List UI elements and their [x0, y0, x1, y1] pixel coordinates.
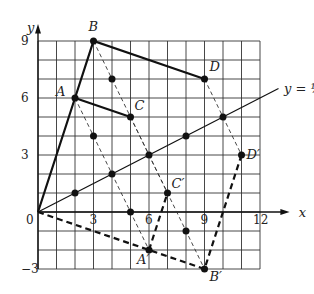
- point-label: A: [55, 84, 65, 99]
- x-tick-label: 12: [253, 213, 268, 227]
- svg-text:0: 0: [26, 213, 34, 227]
- point-marker: [201, 76, 208, 83]
- mirror-line-label: y = ½x: [283, 81, 314, 96]
- point-label: A′: [136, 252, 149, 267]
- point-marker: [127, 114, 134, 121]
- y-tick-label: 3: [21, 148, 29, 162]
- point-marker: [201, 266, 208, 273]
- point-marker: [90, 133, 97, 140]
- y-axis-arrow-icon: [35, 24, 41, 34]
- point-marker: [109, 76, 116, 83]
- point-label: C: [135, 98, 145, 113]
- point-label: D′: [246, 147, 260, 162]
- point-marker: [72, 190, 79, 197]
- y-tick-label: 6: [21, 91, 29, 105]
- point-marker: [109, 171, 116, 178]
- point-marker: [164, 190, 171, 197]
- diagram-canvas: xy036912963−3y = ½xABCDA′B′C′D′: [0, 0, 314, 294]
- point-label: C′: [172, 176, 185, 191]
- point-marker: [72, 95, 79, 102]
- x-tick-label: 3: [90, 213, 98, 227]
- point-marker: [183, 228, 190, 235]
- point-label: B: [88, 19, 99, 34]
- point-label: B′: [209, 269, 223, 284]
- x-axis-arrow-icon: [280, 209, 289, 215]
- x-tick-label: 6: [145, 213, 153, 227]
- point-marker: [238, 152, 245, 159]
- y-tick-label: 9: [21, 34, 29, 48]
- point-marker: [220, 114, 227, 121]
- point-label: D: [209, 59, 221, 74]
- point-marker: [90, 38, 97, 45]
- point-marker: [127, 209, 134, 216]
- x-tick-label: 9: [201, 213, 209, 227]
- reflection-diagram: xy036912963−3y = ½xABCDA′B′C′D′: [0, 0, 314, 294]
- point-marker: [183, 133, 190, 140]
- point-marker: [146, 152, 153, 159]
- x-axis-label: x: [299, 205, 307, 220]
- y-axis-label: y: [26, 20, 35, 35]
- y-tick-label: −3: [21, 262, 39, 276]
